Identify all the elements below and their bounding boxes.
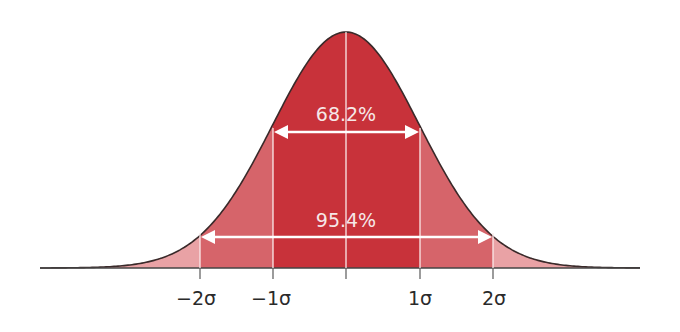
tick-label-pos2-sigma: 2σ bbox=[482, 287, 506, 309]
two-sigma-percent-label: 95.4% bbox=[316, 209, 376, 231]
one-sigma-percent-label: 68.2% bbox=[316, 103, 376, 125]
normal-distribution-diagram: 68.2% 95.4% −2σ −1σ 1σ 2σ bbox=[0, 0, 680, 332]
tick-label-neg2-sigma: −2σ bbox=[176, 287, 216, 309]
tick-label-pos1-sigma: 1σ bbox=[408, 287, 432, 309]
tick-marks bbox=[200, 268, 493, 279]
tick-label-neg1-sigma: −1σ bbox=[251, 287, 291, 309]
